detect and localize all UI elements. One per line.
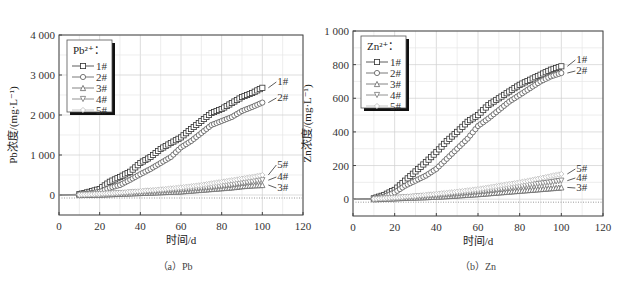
x-tick-label: 80 bbox=[514, 221, 526, 233]
panel-caption: （a）Pb bbox=[158, 261, 193, 272]
legend: Pb²⁺：1#2#3#4#5# bbox=[67, 40, 115, 116]
x-tick-label: 100 bbox=[553, 221, 570, 233]
x-tick-label: 20 bbox=[389, 221, 401, 233]
annotation-1: 1# bbox=[277, 75, 289, 87]
y-tick-label: 1 000 bbox=[30, 149, 55, 161]
figure: 02040608010012001 0002 0003 0004 000时间/d… bbox=[0, 0, 632, 291]
y-tick-label: 400 bbox=[333, 126, 350, 138]
x-tick-label: 100 bbox=[254, 220, 271, 232]
annotation-5: 5# bbox=[576, 162, 588, 174]
y-tick-label: 3 000 bbox=[30, 69, 55, 81]
legend: Zn²⁺：1#2#3#4#5# bbox=[361, 36, 409, 112]
x-tick-label: 0 bbox=[56, 220, 62, 232]
y-axis-label: Pb浓度/(mg·L⁻¹) bbox=[6, 86, 20, 164]
annotation-2: 2# bbox=[576, 64, 588, 76]
x-tick-label: 120 bbox=[595, 221, 612, 233]
annotation-5: 5# bbox=[277, 158, 289, 170]
x-axis-label: 时间/d bbox=[166, 234, 197, 246]
y-axis-label: Zn浓度/(mg·L⁻¹) bbox=[300, 84, 314, 162]
x-tick-label: 60 bbox=[176, 220, 188, 232]
legend-item-5: 5# bbox=[390, 100, 402, 112]
x-tick-label: 40 bbox=[431, 221, 443, 233]
y-tick-label: 0 bbox=[344, 193, 350, 205]
x-tick-label: 120 bbox=[295, 220, 312, 232]
y-tick-label: 1 000 bbox=[324, 25, 349, 37]
legend-title: Pb²⁺： bbox=[73, 44, 105, 56]
x-tick-label: 40 bbox=[135, 220, 147, 232]
y-tick-label: 800 bbox=[333, 59, 350, 71]
y-tick-label: 200 bbox=[333, 160, 350, 172]
panel-caption: （b）Zn bbox=[460, 261, 496, 272]
y-tick-label: 0 bbox=[50, 189, 56, 201]
y-tick-label: 4 000 bbox=[30, 29, 55, 41]
annotation-2: 2# bbox=[277, 91, 289, 103]
legend-title: Zn²⁺： bbox=[367, 40, 399, 52]
y-tick-label: 600 bbox=[333, 92, 350, 104]
x-tick-label: 60 bbox=[473, 221, 485, 233]
x-tick-label: 20 bbox=[94, 220, 106, 232]
annotation-3: 3# bbox=[277, 181, 289, 193]
annotation-4: 4# bbox=[277, 170, 289, 182]
x-axis-label: 时间/d bbox=[463, 235, 494, 247]
legend-item-5: 5# bbox=[96, 104, 108, 116]
pb-chart-panel: 02040608010012001 0002 0003 0004 000时间/d… bbox=[6, 29, 312, 272]
y-tick-label: 2 000 bbox=[30, 109, 55, 121]
zn-chart-panel: 02040608010012002004006008001 000时间/dZn浓… bbox=[300, 25, 612, 272]
x-tick-label: 0 bbox=[350, 221, 356, 233]
x-tick-label: 80 bbox=[216, 220, 228, 232]
